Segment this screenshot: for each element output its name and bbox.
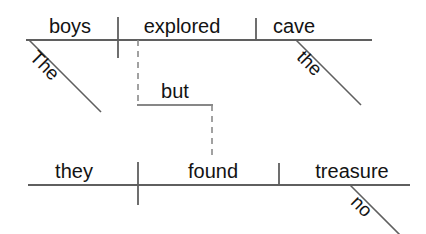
word-subject-they: they [55, 161, 93, 181]
sentence-diagram: boys explored cave The the but they foun… [0, 0, 426, 234]
word-verb-explored: explored [144, 16, 221, 36]
word-subject-boys: boys [49, 16, 91, 36]
word-object-treasure: treasure [315, 161, 388, 181]
word-object-cave: cave [273, 16, 315, 36]
word-verb-found: found [188, 161, 238, 181]
word-conjunction-but: but [161, 81, 189, 101]
